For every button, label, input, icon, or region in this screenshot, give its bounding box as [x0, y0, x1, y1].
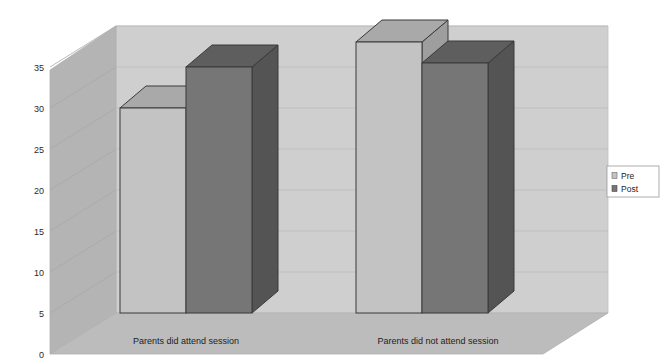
- plot-floor: [50, 313, 608, 354]
- y-tick-label: 25: [34, 145, 44, 155]
- plot-side-wall: [50, 26, 116, 354]
- legend-swatch-post: [612, 186, 617, 192]
- x-axis-label-0: Parents did attend session: [133, 336, 239, 346]
- y-tick-label: 30: [34, 104, 44, 114]
- bar-front-face: [120, 108, 186, 313]
- chart-container: 35 30 25 20 15 10 5 0: [0, 0, 665, 361]
- bar-front-face: [356, 42, 422, 313]
- bar-side-face: [488, 41, 514, 313]
- legend-label-pre: Pre: [621, 171, 635, 181]
- y-tick-label: 15: [34, 227, 44, 237]
- bar-chart-3d: 35 30 25 20 15 10 5 0: [0, 0, 665, 361]
- bar-front-face: [422, 63, 488, 313]
- y-tick-label: 5: [39, 309, 44, 319]
- y-axis-ticks: 35 30 25 20 15 10 5 0: [34, 63, 44, 360]
- legend-label-post: Post: [621, 184, 639, 194]
- legend: Pre Post: [607, 166, 659, 197]
- bar-front-face: [186, 67, 252, 313]
- bar-side-face: [252, 45, 278, 313]
- y-tick-label: 35: [34, 63, 44, 73]
- bar-post-group-1[interactable]: [186, 45, 278, 313]
- bar-post-group-2[interactable]: [422, 41, 514, 313]
- x-axis-label-1: Parents did not attend session: [377, 336, 498, 346]
- y-tick-label: 20: [34, 186, 44, 196]
- y-tick-label: 0: [39, 350, 44, 360]
- y-tick-label: 10: [34, 268, 44, 278]
- legend-swatch-pre: [612, 173, 617, 179]
